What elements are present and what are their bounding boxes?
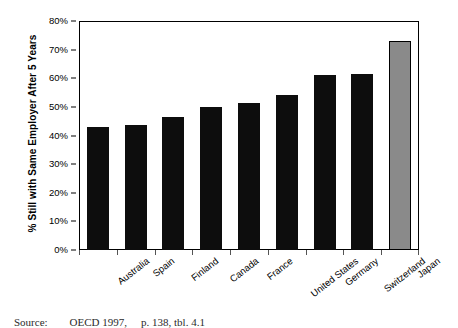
bar-slot <box>343 21 381 250</box>
x-axis-tick-mark <box>418 250 419 255</box>
source-label: Source: <box>14 316 48 328</box>
bar-slot <box>79 21 117 250</box>
x-axis-tick-mark <box>155 250 156 255</box>
bar-slot <box>268 21 306 250</box>
bar-series <box>79 21 419 250</box>
bar-canada[interactable] <box>200 107 222 250</box>
y-axis-tick-mark <box>71 78 76 79</box>
y-axis-tick-mark <box>71 164 76 165</box>
x-axis-category-labels: AustraliaSpainFinlandCanadaFranceUnited … <box>79 256 419 314</box>
source-text: OECD 1997, <box>70 316 127 328</box>
x-axis-tick-mark <box>381 250 382 255</box>
source-page: p. 138, tbl. 4.1 <box>141 316 205 328</box>
x-axis-tick-mark <box>343 250 344 255</box>
y-axis-tick-mark <box>71 49 76 50</box>
source-footnote: Source:OECD 1997,p. 138, tbl. 4.1 <box>14 316 205 328</box>
y-axis-tick-labels: 80%70%60%50%40%30%20%10%0% <box>0 0 79 271</box>
bar-united-states[interactable] <box>276 95 298 250</box>
y-axis-tick-label: 10% <box>49 217 68 227</box>
x-axis-tick-mark <box>230 250 231 255</box>
y-axis-tick-label: 40% <box>49 131 68 141</box>
bar-finland[interactable] <box>162 117 184 250</box>
y-axis-tick-label: 70% <box>49 45 68 55</box>
y-axis-tick-mark <box>71 21 76 22</box>
bar-slot <box>117 21 155 250</box>
y-axis-tick-label: 30% <box>49 159 68 169</box>
bar-japan[interactable] <box>389 41 411 250</box>
x-axis-label-spain: Spain <box>151 256 176 279</box>
bar-slot <box>306 21 344 250</box>
x-axis-tick-mark <box>192 250 193 255</box>
y-axis-tick-mark <box>71 221 76 222</box>
y-axis-tick-mark <box>71 192 76 193</box>
bar-australia[interactable] <box>87 127 109 250</box>
y-axis-tick-label: 50% <box>49 102 68 112</box>
bar-germany[interactable] <box>314 75 336 250</box>
y-axis-tick-label: 80% <box>49 16 68 26</box>
y-axis-tick-mark <box>71 106 76 107</box>
bar-slot <box>192 21 230 250</box>
bar-spain[interactable] <box>125 125 147 250</box>
bar-slot <box>381 21 419 250</box>
y-axis-tick-label: 0% <box>54 245 68 255</box>
x-axis-label-france: France <box>265 256 294 282</box>
x-axis-tick-mark <box>268 250 269 255</box>
bar-slot <box>155 21 193 250</box>
y-axis-tick-label: 20% <box>49 188 68 198</box>
x-axis-tick-mark <box>79 250 80 255</box>
bar-slot <box>230 21 268 250</box>
y-axis-tick-label: 60% <box>49 74 68 84</box>
chart-figure: % Still with Same Employer After 5 Years… <box>0 0 458 328</box>
y-axis-tick-mark <box>71 135 76 136</box>
x-axis-tick-mark <box>117 250 118 255</box>
x-axis-label-australia: Australia <box>116 256 151 287</box>
x-axis-label-canada: Canada <box>228 256 260 284</box>
x-axis-tick-mark <box>306 250 307 255</box>
bar-france[interactable] <box>238 103 260 250</box>
bar-switzerland[interactable] <box>351 74 373 250</box>
x-axis-label-finland: Finland <box>190 256 221 283</box>
y-axis-tick-mark <box>71 250 76 251</box>
